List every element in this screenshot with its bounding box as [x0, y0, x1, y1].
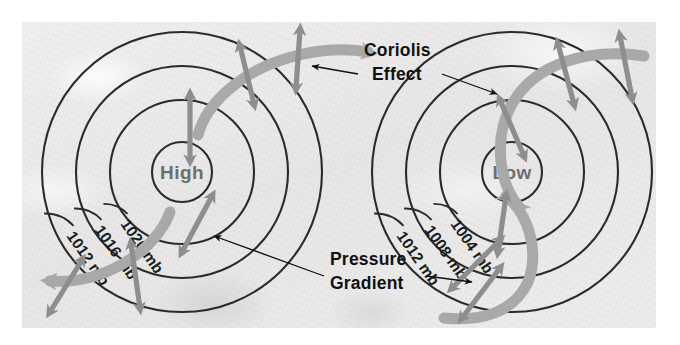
pressure-gradient-leader-line-left	[214, 236, 324, 276]
high-wind-flow-arrow-top	[198, 50, 368, 135]
high-force-arrow-d	[182, 196, 212, 252]
pressure-gradient-label-line2: Gradient	[330, 273, 404, 293]
diagram-canvas: High 1020 mb 1016 mb 1012 mb	[0, 0, 680, 345]
low-force-arrow-b	[558, 44, 574, 104]
coriolis-effect-label-line2: Effect	[372, 64, 422, 84]
high-force-arrows-bottom	[50, 196, 212, 312]
high-pressure-system: High 1020 mb 1016 mb 1012 mb	[42, 30, 368, 312]
high-center-label: High	[160, 162, 204, 183]
pressure-systems-diagram: High 1020 mb 1016 mb 1012 mb	[0, 0, 680, 345]
high-force-arrow-c	[296, 30, 300, 88]
coriolis-leader-line-right	[442, 74, 497, 94]
pressure-gradient-label-line1: Pressure	[330, 249, 407, 269]
coriolis-effect-label-line1: Coriolis	[364, 40, 431, 60]
coriolis-leader-line-left	[312, 66, 358, 74]
low-force-arrow-c	[620, 36, 632, 98]
